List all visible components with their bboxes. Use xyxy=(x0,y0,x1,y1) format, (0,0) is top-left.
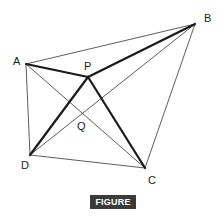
point-label-C: C xyxy=(148,175,156,186)
thin-lines xyxy=(26,24,195,168)
segment-CD xyxy=(30,155,145,168)
segment-DA xyxy=(26,64,30,155)
segment-PA xyxy=(26,64,88,77)
geometry-diagram xyxy=(0,0,224,222)
point-label-B: B xyxy=(204,13,211,24)
segment-PC xyxy=(88,77,145,168)
point-label-A: A xyxy=(13,56,20,67)
figure-caption: FIGURE 4-6 xyxy=(90,195,136,209)
point-label-P: P xyxy=(84,61,91,72)
point-label-Q: Q xyxy=(77,121,86,132)
point-label-D: D xyxy=(21,160,29,171)
